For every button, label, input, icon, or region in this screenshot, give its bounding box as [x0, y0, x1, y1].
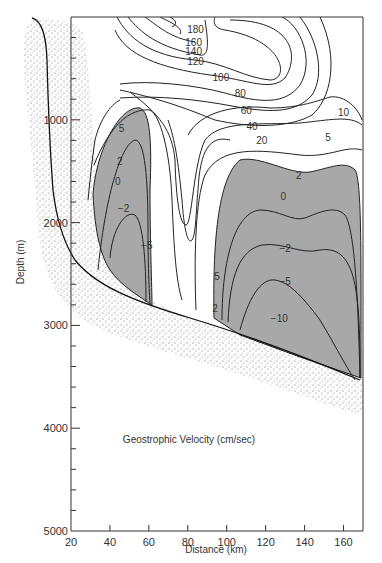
contour-label: 20 — [256, 135, 268, 146]
y-axis-title: Depth (m) — [15, 240, 26, 284]
contour-40 — [120, 17, 319, 110]
y-tick-label: 2000 — [44, 217, 68, 229]
contour-label: −5 — [279, 276, 291, 287]
contour-label: 5 — [119, 123, 125, 134]
x-tick-label: 40 — [104, 536, 116, 548]
y-tick-label: 3000 — [44, 319, 68, 331]
contour-label: 100 — [213, 72, 230, 83]
contour-label: 120 — [187, 56, 204, 67]
contour-label: 0 — [280, 191, 286, 202]
contour-label: 0 — [115, 176, 121, 187]
x-axis-title: Distance (km) — [185, 544, 247, 555]
contour-label: 180 — [187, 24, 204, 35]
contour-60 — [120, 17, 306, 100]
y-tick-label: 1000 — [44, 114, 68, 126]
contour-label: −2 — [118, 203, 130, 214]
contour-label: 5 — [214, 271, 220, 282]
contour-label: −5 — [141, 240, 153, 251]
contour-label: 2 — [212, 303, 218, 314]
y-tick-label: 4000 — [44, 422, 68, 434]
contour-160 — [160, 17, 181, 34]
contour-label: 2 — [296, 170, 302, 181]
contour-label: 2 — [117, 156, 123, 167]
contour-label: −10 — [271, 313, 288, 324]
x-tick-label: 120 — [256, 536, 274, 548]
contour-label: 80 — [235, 88, 247, 99]
x-tick-label: 140 — [295, 536, 313, 548]
contour-label: 60 — [241, 105, 253, 116]
x-tick-label: 60 — [143, 536, 155, 548]
geostrophic-velocity-chart: 10002000300040005000 2040608010012014016… — [0, 0, 382, 563]
chart-title: Geostrophic Velocity (cm/sec) — [123, 434, 255, 445]
x-tick-label: 160 — [334, 536, 352, 548]
contour-label: 40 — [246, 121, 258, 132]
contour-label: 10 — [338, 107, 350, 118]
contour-label: −2 — [279, 243, 291, 254]
x-tick-label: 20 — [65, 536, 77, 548]
contour-label: 5 — [325, 132, 331, 143]
